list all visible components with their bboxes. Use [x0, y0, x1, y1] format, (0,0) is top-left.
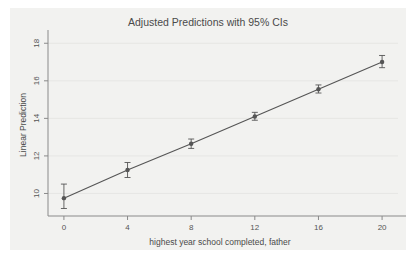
data-point — [125, 168, 129, 172]
data-point — [62, 196, 66, 200]
figure-root: 1012141618 048121620 Adjusted Prediction… — [0, 0, 416, 263]
data-point — [316, 87, 320, 91]
y-tick-label: 18 — [32, 38, 41, 47]
y-tick-label: 14 — [32, 113, 41, 122]
y-axis-label: Linear Prediction — [18, 93, 28, 157]
y-tick-label: 12 — [32, 151, 41, 160]
x-tick-label: 16 — [314, 223, 323, 232]
x-tick-label: 12 — [250, 223, 259, 232]
x-tick-label: 8 — [189, 223, 194, 232]
x-axis-label: highest year school completed, father — [149, 237, 290, 247]
x-axis-ticks: 048121620 — [62, 216, 387, 232]
data-point — [189, 142, 193, 146]
prediction-line — [64, 62, 382, 198]
data-point — [380, 60, 384, 64]
y-tick-label: 16 — [32, 76, 41, 85]
adjusted-predictions-chart: 1012141618 048121620 Adjusted Prediction… — [0, 0, 416, 263]
x-tick-label: 0 — [62, 223, 67, 232]
error-bars — [61, 55, 385, 208]
chart-title: Adjusted Predictions with 95% CIs — [128, 16, 288, 28]
y-tick-label: 10 — [32, 188, 41, 197]
y-axis-ticks: 1012141618 — [32, 38, 48, 198]
x-tick-label: 20 — [378, 223, 387, 232]
axis-lines — [48, 30, 406, 216]
data-point — [253, 114, 257, 118]
gridlines — [48, 43, 398, 193]
x-tick-label: 4 — [125, 223, 130, 232]
